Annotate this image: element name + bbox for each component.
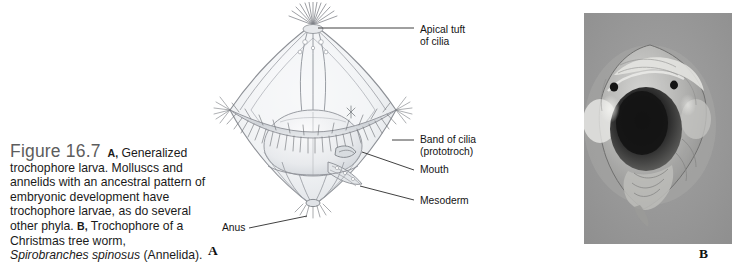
trochophore-diagram	[196, 2, 426, 244]
caption-tag-a: A,	[108, 147, 119, 159]
caption-species-name: Spirobranches spinosus	[10, 248, 140, 262]
caption-text-3: (Annelida).	[140, 248, 202, 262]
label-band-of-cilia: Band of cilia (prototroch)	[420, 134, 476, 158]
trochophore-photo-panel	[584, 13, 732, 244]
figure-number: Figure 16.7	[10, 141, 101, 161]
trochophore-larva-micrograph	[584, 13, 732, 244]
label-mesoderm: Mesoderm	[420, 195, 469, 207]
caption-tag-b: B,	[77, 220, 88, 232]
anus	[295, 199, 331, 218]
gut-sac	[264, 110, 362, 176]
apical-tuft-of-cilia	[289, 2, 337, 25]
label-band-cilia-line1: Band of cilia	[420, 134, 476, 146]
figure-caption: Figure 16.7 A, Generalized trochophore l…	[10, 143, 206, 263]
label-anus: Anus	[222, 222, 245, 234]
panel-letter-a: A	[208, 243, 218, 259]
apical-plate	[303, 25, 323, 34]
trochophore-larva-diagram	[196, 2, 426, 244]
label-band-cilia-line2: (prototroch)	[420, 146, 476, 158]
label-apical-tuft-line1: Apical tuft	[420, 24, 465, 36]
label-mouth: Mouth	[420, 164, 449, 176]
eyespot-left	[610, 82, 618, 91]
panel-letter-b: B	[699, 246, 708, 262]
eyespot-right	[670, 81, 678, 90]
label-apical-tuft: Apical tuft of cilia	[420, 24, 465, 48]
label-apical-tuft-line2: of cilia	[420, 36, 465, 48]
